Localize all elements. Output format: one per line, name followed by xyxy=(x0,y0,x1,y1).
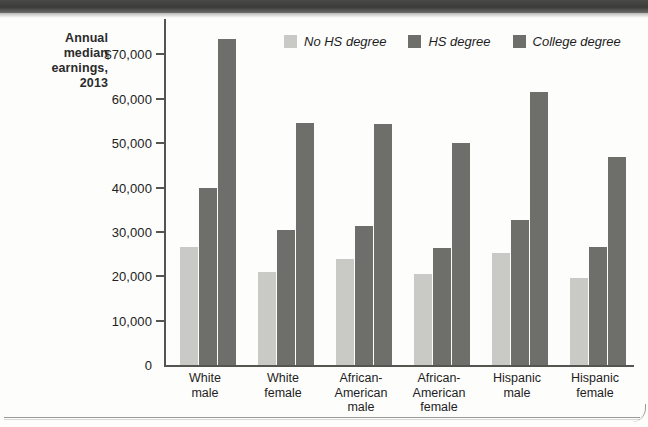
y-axis-tick-label: $70,000 xyxy=(60,47,152,62)
x-axis-category-label-line: male xyxy=(166,386,244,401)
bar-college-degree xyxy=(374,124,392,365)
chart-axis-title-line-3: earnings, xyxy=(8,61,108,76)
x-axis-category-label-line: male xyxy=(322,400,400,415)
y-axis-tick-label: 60,000 xyxy=(60,91,152,106)
bar-hs-degree xyxy=(355,226,373,365)
bar-no-hs-degree xyxy=(414,274,432,365)
y-axis-tick xyxy=(156,320,164,322)
bar-no-hs-degree xyxy=(258,272,276,365)
bar-group: Hispanicfemale xyxy=(556,19,634,365)
x-axis-category-label-line: American xyxy=(322,386,400,401)
page-top-band xyxy=(0,0,648,13)
x-axis-category-label: Hispanicmale xyxy=(478,371,556,400)
y-axis-tick-label: 0 xyxy=(60,358,152,373)
bar-chart: Annual median earnings, 2013 No HS degre… xyxy=(0,18,648,418)
chart-page: Annual median earnings, 2013 No HS degre… xyxy=(0,0,648,427)
bar-no-hs-degree xyxy=(180,247,198,365)
y-axis-tick-label: 10,000 xyxy=(60,313,152,328)
x-axis-category-label-line: Hispanic xyxy=(478,371,556,386)
y-axis-tick-label: 20,000 xyxy=(60,269,152,284)
plot-area: 010,00020,00030,00040,00050,00060,000$70… xyxy=(164,19,634,367)
x-axis-category-label-line: African- xyxy=(400,371,478,386)
bar-no-hs-degree xyxy=(336,259,354,365)
bar-college-degree xyxy=(296,123,314,365)
page-corner-curl xyxy=(627,404,646,422)
bar-group: African-Americanfemale xyxy=(400,19,478,365)
x-axis-category-label-line: female xyxy=(400,400,478,415)
bar-hs-degree xyxy=(277,230,295,365)
bar-hs-degree xyxy=(433,248,451,365)
bar-hs-degree xyxy=(199,188,217,365)
bar-groups: WhitemaleWhitefemaleAfrican-Americanmale… xyxy=(166,19,634,365)
y-axis-tick xyxy=(156,53,164,55)
page-bottom-rule-shadow xyxy=(4,419,640,420)
x-axis-category-label-line: female xyxy=(556,386,634,401)
bar-college-degree xyxy=(608,157,626,365)
bar-group: African-Americanmale xyxy=(322,19,400,365)
x-axis-category-label: Hispanicfemale xyxy=(556,371,634,400)
x-axis-category-label-line: American xyxy=(400,386,478,401)
bar-college-degree xyxy=(530,92,548,365)
x-axis-category-label: Whitefemale xyxy=(244,371,322,400)
x-axis-category-label-line: Hispanic xyxy=(556,371,634,386)
bar-hs-degree xyxy=(511,220,529,365)
bar-college-degree xyxy=(452,143,470,365)
bar-group: Hispanicmale xyxy=(478,19,556,365)
chart-axis-title-line-4: 2013 xyxy=(8,76,108,91)
page-bottom-rule xyxy=(4,417,640,418)
chart-axis-title-line-1: Annual xyxy=(8,31,108,46)
y-axis-tick xyxy=(156,187,164,189)
y-axis-tick-label: 30,000 xyxy=(60,224,152,239)
bar-group: Whitefemale xyxy=(244,19,322,365)
x-axis-category-label-line: White xyxy=(244,371,322,386)
y-axis-tick-label: 40,000 xyxy=(60,180,152,195)
x-axis-category-label-line: White xyxy=(166,371,244,386)
x-axis-category-label: African-Americanmale xyxy=(322,371,400,415)
x-axis-category-label-line: male xyxy=(478,386,556,401)
bar-no-hs-degree xyxy=(492,253,510,365)
x-axis-line xyxy=(164,365,634,367)
x-axis-category-label: Whitemale xyxy=(166,371,244,400)
bar-no-hs-degree xyxy=(570,278,588,365)
y-axis-tick xyxy=(156,231,164,233)
bar-hs-degree xyxy=(589,247,607,365)
x-axis-category-label-line: female xyxy=(244,386,322,401)
x-axis-category-label: African-Americanfemale xyxy=(400,371,478,415)
y-axis-tick xyxy=(156,275,164,277)
y-axis-tick xyxy=(156,98,164,100)
bar-college-degree xyxy=(218,39,236,365)
y-axis-tick xyxy=(156,142,164,144)
y-axis-tick-label: 50,000 xyxy=(60,136,152,151)
bar-group: Whitemale xyxy=(166,19,244,365)
x-axis-category-label-line: African- xyxy=(322,371,400,386)
